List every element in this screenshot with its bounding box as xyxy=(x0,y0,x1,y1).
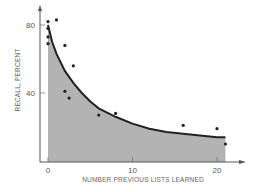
data-point xyxy=(182,124,185,127)
y-axis-title: RECALL, PERCENT xyxy=(14,49,21,112)
data-point xyxy=(72,64,75,67)
data-point xyxy=(46,27,49,30)
x-tick-label: 10 xyxy=(128,166,137,175)
x-axis-title: NUMBER PREVIOUS LISTS LEARNED xyxy=(82,176,204,183)
recall-chart: 010204080 NUMBER PREVIOUS LISTS LEARNED … xyxy=(0,0,269,192)
x-tick-label: 0 xyxy=(46,166,51,175)
y-axis-arrow-icon xyxy=(38,5,42,11)
area-fill xyxy=(48,25,225,162)
data-point xyxy=(114,112,117,115)
x-tick-label: 20 xyxy=(213,166,222,175)
data-point xyxy=(97,114,100,117)
data-point xyxy=(46,42,49,45)
data-point xyxy=(215,127,218,130)
data-point xyxy=(55,18,58,21)
shaded-area xyxy=(48,25,225,162)
data-point xyxy=(68,97,71,100)
data-point xyxy=(224,142,227,145)
x-axis-arrow-icon xyxy=(239,160,246,164)
data-point xyxy=(63,44,66,47)
data-point xyxy=(63,90,66,93)
data-point xyxy=(46,35,49,38)
y-tick-label: 80 xyxy=(26,21,35,30)
y-tick-label: 40 xyxy=(26,89,35,98)
data-point xyxy=(46,20,49,23)
